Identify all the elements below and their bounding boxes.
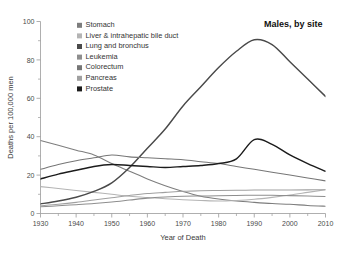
series-group <box>41 39 326 206</box>
x-tick-label: 1970 <box>175 220 191 227</box>
mortality-line-chart: 0204060801001930194019501960197019801990… <box>0 0 346 256</box>
legend-swatch <box>77 55 82 60</box>
legend-label: Prostate <box>86 84 114 93</box>
axis-frame <box>41 22 326 214</box>
legend-label: Leukemia <box>86 52 119 61</box>
x-tick-label: 1940 <box>68 220 84 227</box>
legend-label: Pancreas <box>86 73 118 82</box>
series-line <box>41 139 326 179</box>
legend-label: Stomach <box>86 20 115 29</box>
legend-label: Liver & intrahepatic bile duct <box>86 31 179 40</box>
chart-title: Males, by site <box>264 19 323 29</box>
series-line <box>41 187 326 201</box>
x-tick-label: 2000 <box>282 220 298 227</box>
y-tick-label: 20 <box>27 172 35 179</box>
y-tick-label: 0 <box>31 210 35 217</box>
series-line <box>41 39 326 203</box>
x-tick-label: 1930 <box>33 220 49 227</box>
y-tick-label: 100 <box>23 18 35 25</box>
x-tick-label: 1990 <box>246 220 262 227</box>
series-line <box>41 155 326 181</box>
y-axis-title: Deaths per 100,000 men <box>6 76 15 159</box>
x-tick-label: 1950 <box>104 220 120 227</box>
legend-swatch <box>77 76 82 81</box>
x-tick-label: 1960 <box>140 220 156 227</box>
y-tick-label: 40 <box>27 133 35 140</box>
y-tick-label: 60 <box>27 95 35 102</box>
y-tick-label: 80 <box>27 57 35 64</box>
legend-swatch <box>77 65 82 70</box>
legend-swatch <box>77 23 82 28</box>
chart-figure: 0204060801001930194019501960197019801990… <box>0 0 346 256</box>
legend-swatch <box>77 44 82 49</box>
series-line <box>41 190 326 206</box>
legend-label: Lung and bronchus <box>86 41 150 50</box>
legend-swatch <box>77 86 82 91</box>
x-tick-label: 2010 <box>318 220 334 227</box>
legend-swatch <box>77 33 82 38</box>
legend-label: Colorectum <box>86 62 124 71</box>
x-tick-label: 1980 <box>211 220 227 227</box>
x-axis-title: Year of Death <box>160 233 206 242</box>
